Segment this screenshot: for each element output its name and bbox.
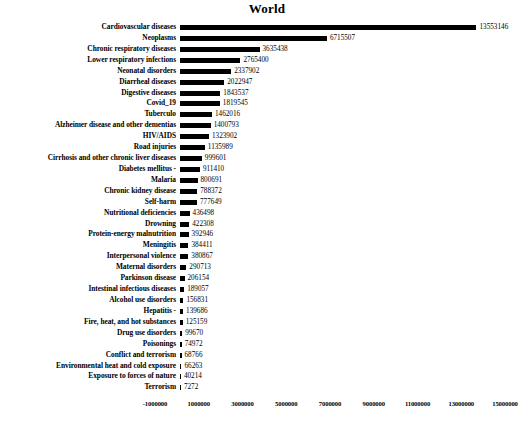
x-tick-label: 7000000 <box>319 398 341 410</box>
bar-row: Lower respiratory infections2765400 <box>0 55 528 66</box>
bar-value-label: 392946 <box>189 229 214 240</box>
bar-value-label: 2765400 <box>240 55 268 66</box>
category-label: Diabetes mellitus - <box>0 164 176 175</box>
category-label: HIV/AIDS <box>0 131 176 142</box>
bar-row: Diabetes mellitus -911410 <box>0 164 528 175</box>
bar-row: Cardiovascular diseases13553146 <box>0 22 528 33</box>
bar-value-label: 7272 <box>181 382 198 393</box>
bar <box>180 47 260 52</box>
bar-value-label: 1400793 <box>211 120 239 131</box>
bar-track: 800691 <box>180 175 528 186</box>
bar <box>180 123 211 128</box>
bar-row: Chronic respiratory diseases3635438 <box>0 44 528 55</box>
bar-row: Covid_191819545 <box>0 98 528 109</box>
bar-chart: World Cardiovascular diseases13553146Neo… <box>0 0 528 421</box>
bar <box>180 232 189 237</box>
bar-track: 436498 <box>180 208 528 219</box>
bar-row: Maternal disorders290713 <box>0 262 528 273</box>
bar-track: 1462016 <box>180 109 528 120</box>
category-label: Hepatitis - <box>0 306 176 317</box>
bar <box>180 156 202 161</box>
x-tick-label: -1000000 <box>143 398 167 410</box>
x-tick-label: 13000000 <box>448 398 474 410</box>
bar-row: Hepatitis -139686 <box>0 306 528 317</box>
bar <box>180 80 224 85</box>
category-label: Malaria <box>0 175 176 186</box>
bar-row: Diarrheal diseases2022947 <box>0 77 528 88</box>
category-label: Intestinal infectious diseases <box>0 284 176 295</box>
category-label: Exposure to forces of nature <box>0 371 176 382</box>
bar-track: 3635438 <box>180 44 528 55</box>
category-label: Terrorism <box>0 382 176 393</box>
bar-track: 1135989 <box>180 142 528 153</box>
bar-track: 68766 <box>180 350 528 361</box>
bar-value-label: 68766 <box>182 350 203 361</box>
category-label: Chronic respiratory diseases <box>0 44 176 55</box>
bar-value-label: 206154 <box>185 273 210 284</box>
bar-track: 125159 <box>180 317 528 328</box>
category-label: Drowning <box>0 219 176 230</box>
bar-track: 139686 <box>180 306 528 317</box>
bar <box>180 167 200 172</box>
bar-value-label: 125159 <box>183 317 208 328</box>
bar-value-label: 380867 <box>188 251 213 262</box>
bar-track: 156831 <box>180 295 528 306</box>
bar-value-label: 40214 <box>181 371 202 382</box>
bar-row: Road injuries1135989 <box>0 142 528 153</box>
bar-row: HIV/AIDS1323902 <box>0 131 528 142</box>
bar-value-label: 436498 <box>190 208 215 219</box>
bar-value-label: 2022947 <box>224 77 252 88</box>
bar-row: Poisonings74972 <box>0 339 528 350</box>
bar-row: Cirrhosis and other chronic liver diseas… <box>0 153 528 164</box>
bar-track: 6715507 <box>180 33 528 44</box>
category-label: Protein-energy malnutrition <box>0 229 176 240</box>
category-label: Parkinson disease <box>0 273 176 284</box>
category-label: Alzheimer disease and other dementias <box>0 120 176 131</box>
bar-track: 2022947 <box>180 77 528 88</box>
bar-value-label: 2337902 <box>231 66 259 77</box>
bar-track: 99670 <box>180 328 528 339</box>
bar-row: Fire, heat, and hot substances125159 <box>0 317 528 328</box>
category-label: Maternal disorders <box>0 262 176 273</box>
bar <box>180 101 220 106</box>
bar-track: 206154 <box>180 273 528 284</box>
bar-track: 7272 <box>180 382 528 393</box>
bar <box>180 91 220 96</box>
bar <box>180 189 197 194</box>
bar-row: Alzheimer disease and other dementias140… <box>0 120 528 131</box>
bar-row: Parkinson disease206154 <box>0 273 528 284</box>
bar <box>180 222 189 227</box>
bar-track: 999601 <box>180 153 528 164</box>
bar-value-label: 911410 <box>200 164 224 175</box>
bar-row: Drowning422308 <box>0 219 528 230</box>
bar-value-label: 777649 <box>197 197 222 208</box>
category-label: Interpersonal violence <box>0 251 176 262</box>
bar-row: Interpersonal violence380867 <box>0 251 528 262</box>
bar-track: 290713 <box>180 262 528 273</box>
category-label: Cardiovascular diseases <box>0 22 176 33</box>
bar-row: Protein-energy malnutrition392946 <box>0 229 528 240</box>
x-tick-label: 11000000 <box>405 398 430 410</box>
bar <box>180 69 231 74</box>
bar <box>180 254 188 259</box>
bar-track: 189057 <box>180 284 528 295</box>
x-tick-label: 15000000 <box>492 398 518 410</box>
category-label: Digestive diseases <box>0 88 176 99</box>
bar-track: 911410 <box>180 164 528 175</box>
bar-value-label: 99670 <box>182 328 203 339</box>
bar <box>180 200 197 205</box>
bar <box>180 36 327 41</box>
bar-row: Environmental heat and cold exposure6626… <box>0 361 528 372</box>
category-label: Covid_19 <box>0 98 176 109</box>
bar-track: 422308 <box>180 219 528 230</box>
category-label: Neoplasms <box>0 33 176 44</box>
bar-value-label: 3635438 <box>260 44 288 55</box>
category-label: Meningitis <box>0 240 176 251</box>
bar-value-label: 1462016 <box>212 109 240 120</box>
category-label: Self-harm <box>0 197 176 208</box>
category-label: Conflict and terrorism <box>0 350 176 361</box>
category-label: Drug use disorders <box>0 328 176 339</box>
bar-track: 74972 <box>180 339 528 350</box>
bar-row: Intestinal infectious diseases189057 <box>0 284 528 295</box>
bar-track: 66263 <box>180 361 528 372</box>
